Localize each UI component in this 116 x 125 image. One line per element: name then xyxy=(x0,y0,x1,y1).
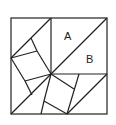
bottom-square-left-extension xyxy=(41,101,44,114)
diagonal-center-to-top-right xyxy=(51,18,107,74)
left-square-extension xyxy=(25,81,32,95)
label-a: A xyxy=(64,30,72,42)
bottom-square-top-edge xyxy=(51,74,74,89)
bottom-square-bottom-edge xyxy=(44,101,67,114)
square-dissection-diagram: A B xyxy=(0,0,116,125)
left-square-left-edge xyxy=(11,58,25,81)
left-square-right-edge xyxy=(37,51,51,74)
label-b: B xyxy=(86,53,93,65)
left-square-tick xyxy=(31,38,37,51)
